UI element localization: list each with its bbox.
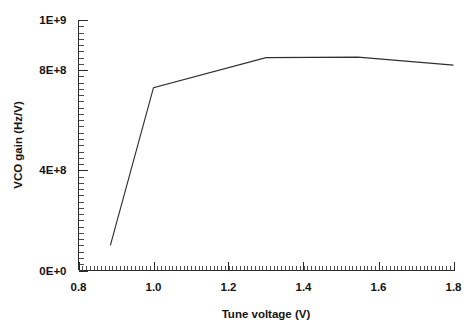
x-axis-tick-labels: 0.81.01.21.41.61.8	[71, 281, 463, 293]
x-axis-tick-label: 1.8	[446, 281, 463, 293]
x-axis-tick-label: 1.6	[371, 281, 387, 293]
series-line-vco-gain	[110, 57, 453, 245]
series-vco-gain	[110, 57, 453, 245]
x-axis-tick-label: 0.8	[71, 281, 88, 293]
y-axis-tick-label: 0E+0	[39, 265, 66, 277]
y-axis-tick-label: 4E+8	[39, 164, 67, 176]
y-axis-tick-labels: 0E+04E+88E+81E+9	[39, 14, 67, 277]
chart-plot-area: 0.81.01.21.41.61.8 0E+04E+88E+81E+9 Tune…	[0, 0, 473, 332]
y-axis-minor-ticks	[79, 21, 84, 272]
x-axis-tick-label: 1.2	[221, 281, 237, 293]
x-axis-title: Tune voltage (V)	[222, 308, 311, 320]
y-axis-tick-label: 8E+8	[39, 64, 67, 76]
y-axis-tick-label: 1E+9	[39, 14, 66, 26]
x-axis-minor-ticks	[80, 266, 455, 271]
x-axis-tick-label: 1.0	[146, 281, 162, 293]
x-axis-tick-label: 1.4	[296, 281, 313, 293]
vco-gain-chart: 0.81.01.21.41.61.8 0E+04E+88E+81E+9 Tune…	[0, 0, 473, 332]
y-axis-title: VCO gain (Hz/V)	[12, 101, 24, 189]
